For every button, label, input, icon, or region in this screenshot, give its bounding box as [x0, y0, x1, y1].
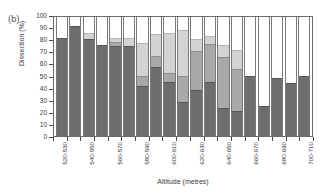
- x-tick-label: 660-670: [253, 142, 259, 165]
- bar-segment-dark: [110, 46, 120, 136]
- bar[interactable]: [83, 17, 95, 136]
- bar[interactable]: [123, 17, 135, 136]
- bar-segment-medium: [191, 51, 201, 90]
- bar-segment-light: [205, 36, 215, 44]
- x-tick: [231, 137, 232, 141]
- x-tick: [313, 137, 314, 141]
- bar[interactable]: [69, 17, 81, 136]
- x-tick-label: 680-690: [281, 142, 287, 165]
- bar[interactable]: [96, 17, 108, 136]
- x-axis-title: Altitude (metres): [53, 178, 313, 185]
- y-tick-label: 50: [40, 73, 47, 80]
- x-tick: [258, 137, 259, 141]
- bar-segment-dark: [205, 82, 215, 136]
- bar[interactable]: [150, 17, 162, 136]
- bar-segment-dark: [259, 106, 269, 136]
- bar-segment-dark: [70, 26, 80, 136]
- bar-segment-dark: [97, 45, 107, 136]
- x-tick: [162, 137, 163, 141]
- x-tick: [217, 137, 218, 141]
- x-tick: [149, 137, 150, 141]
- x-tick: [176, 137, 177, 141]
- bar-segment-dark: [232, 111, 242, 136]
- bar-segment-dark: [286, 83, 296, 136]
- bar-segment-light: [218, 45, 228, 57]
- bar[interactable]: [271, 17, 283, 136]
- bar-segment-dark: [178, 102, 188, 136]
- bar-segment-medium: [218, 57, 228, 108]
- y-tick-label: 60: [40, 61, 47, 68]
- bar-segment-medium: [137, 76, 147, 87]
- bar[interactable]: [285, 17, 297, 136]
- y-axis-title-wrap: Dissection (%): [22, 20, 32, 130]
- x-tick: [108, 137, 109, 141]
- y-tick-label: 80: [40, 37, 47, 44]
- x-tick: [53, 137, 54, 141]
- y-tick-label: 10: [40, 122, 47, 129]
- bar-segment-medium: [164, 73, 174, 81]
- bar-segment-dark: [164, 82, 174, 136]
- bar-segment-medium: [232, 69, 242, 110]
- x-tick: [121, 137, 122, 141]
- bar-segment-light: [137, 43, 147, 76]
- bar-segment-dark: [57, 38, 67, 136]
- x-tick: [94, 137, 95, 141]
- bar[interactable]: [258, 17, 270, 136]
- x-tick: [272, 137, 273, 141]
- bar[interactable]: [190, 17, 202, 136]
- bar[interactable]: [231, 17, 243, 136]
- bar-segment-dark: [84, 39, 94, 136]
- bar-segment-light: [178, 30, 188, 76]
- bar-segment-dark: [137, 86, 147, 136]
- bar-segment-dark: [245, 76, 255, 137]
- bar-segment-dark: [272, 78, 282, 136]
- x-tick: [67, 137, 68, 141]
- x-tick: [80, 137, 81, 141]
- bar-segment-medium: [151, 56, 161, 67]
- bar-segment-dark: [151, 67, 161, 136]
- y-tick-label: 90: [40, 25, 47, 32]
- x-tick-label: 700-710: [308, 142, 314, 165]
- x-tick-label: 520-530: [62, 142, 68, 165]
- bar-segment-medium: [205, 44, 215, 82]
- y-tick-label: 20: [40, 110, 47, 117]
- bar[interactable]: [136, 17, 148, 136]
- bar-segment-dark: [218, 108, 228, 136]
- x-tick-label: 620-630: [199, 142, 205, 165]
- bar-segment-light: [124, 38, 134, 46]
- bar-segment-light: [151, 34, 161, 56]
- x-tick-label: 600-610: [171, 142, 177, 165]
- x-tick: [245, 137, 246, 141]
- bar[interactable]: [163, 17, 175, 136]
- y-tick-label: 40: [40, 85, 47, 92]
- x-tick-label: 640-650: [226, 142, 232, 165]
- figure-panel-b: (b) Dissection (%) 010203040506070809010…: [0, 0, 324, 195]
- bar[interactable]: [298, 17, 310, 136]
- y-tick-label: 30: [40, 97, 47, 104]
- bar-segment-medium: [178, 76, 188, 103]
- bar[interactable]: [177, 17, 189, 136]
- x-tick: [286, 137, 287, 141]
- bar[interactable]: [204, 17, 216, 136]
- bar[interactable]: [109, 17, 121, 136]
- y-axis-title: Dissection (%): [18, 21, 25, 66]
- bar-segment-light: [164, 33, 174, 73]
- bar[interactable]: [244, 17, 256, 136]
- x-tick: [204, 137, 205, 141]
- x-tick: [135, 137, 136, 141]
- bar-segment-light: [232, 50, 242, 69]
- bar-segment-dark: [299, 76, 309, 137]
- x-tick-label: 580-590: [144, 142, 150, 165]
- x-tick-label: 560-570: [117, 142, 123, 165]
- x-tick-label: 540-550: [89, 142, 95, 165]
- x-tick: [190, 137, 191, 141]
- plot-area: [53, 16, 313, 137]
- x-axis-tick-labels: 520-530540-550560-570580-590600-610620-6…: [53, 142, 313, 176]
- bar[interactable]: [56, 17, 68, 136]
- bar-segment-light: [191, 39, 201, 51]
- bar-segment-dark: [191, 90, 201, 136]
- bar[interactable]: [217, 17, 229, 136]
- y-tick-label: 100: [36, 13, 47, 20]
- bar-series-group: [54, 17, 312, 136]
- bar-segment-dark: [124, 46, 134, 136]
